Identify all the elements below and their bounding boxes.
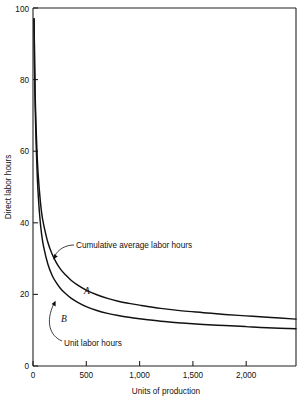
y-tick-label-40: 40 [20,219,30,228]
y-axis-title: Direct labor hours [4,155,13,220]
chart-svg: 0 20 40 60 80 100 0 500 1,000 1,500 2,00… [0,0,305,400]
annotation-label-unit: Unit labor hours [64,339,122,348]
x-axis-title: Units of production [132,387,201,396]
x-tick-label-1500: 1,500 [183,371,204,380]
learning-curve-chart: 0 20 40 60 80 100 0 500 1,000 1,500 2,00… [0,0,305,400]
x-tick-label-2000: 2,000 [236,371,257,380]
chart-background [0,0,305,400]
y-tick-label-20: 20 [20,290,30,299]
y-tick-label-60: 60 [20,147,30,156]
curve-letter-a: A [83,286,90,296]
x-tick-label-1000: 1,000 [129,371,150,380]
y-tick-label-80: 80 [20,76,30,85]
annotation-label-cumulative: Cumulative average labor hours [76,241,192,250]
curve-letter-b: B [61,314,67,324]
y-tick-label-100: 100 [15,5,29,14]
x-tick-label-500: 500 [79,371,93,380]
x-tick-label-0: 0 [31,371,36,380]
y-tick-label-0: 0 [24,362,29,371]
